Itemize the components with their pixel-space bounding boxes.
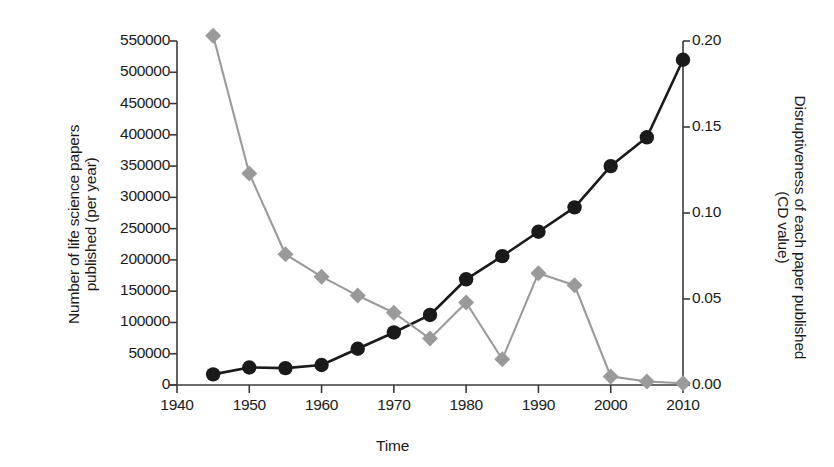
- data-point-circle: [640, 130, 654, 144]
- data-point-circle: [604, 159, 618, 173]
- data-point-circle: [351, 342, 365, 356]
- data-point-circle: [459, 272, 473, 286]
- data-point-diamond: [386, 305, 402, 321]
- data-point-diamond: [675, 375, 691, 391]
- data-point-diamond: [241, 165, 257, 181]
- series-cd-value: [205, 28, 691, 391]
- series-line: [213, 36, 683, 383]
- data-point-circle: [387, 325, 401, 339]
- data-point-circle: [567, 200, 581, 214]
- data-point-diamond: [603, 368, 619, 384]
- plot-area: [0, 0, 834, 467]
- data-point-diamond: [277, 246, 293, 262]
- data-point-diamond: [530, 265, 546, 281]
- data-point-circle: [314, 358, 328, 372]
- data-point-circle: [206, 367, 220, 381]
- data-point-circle: [423, 308, 437, 322]
- data-point-diamond: [350, 288, 366, 304]
- data-point-circle: [676, 53, 690, 67]
- data-point-diamond: [205, 28, 221, 44]
- series-papers: [206, 53, 690, 382]
- series-line: [213, 60, 683, 375]
- data-point-circle: [495, 249, 509, 263]
- data-point-diamond: [567, 277, 583, 293]
- data-point-diamond: [494, 351, 510, 367]
- data-point-diamond: [639, 374, 655, 390]
- data-point-circle: [242, 360, 256, 374]
- data-point-circle: [278, 361, 292, 375]
- data-point-circle: [531, 225, 545, 239]
- data-point-diamond: [314, 269, 330, 285]
- chart-figure: Number of life science papers published …: [0, 0, 834, 467]
